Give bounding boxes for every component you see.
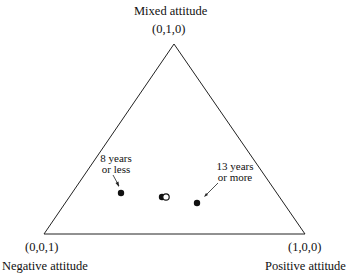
- annotation-13-years-line2: or more: [210, 172, 260, 183]
- top-vertex-coord: (0,1,0): [152, 22, 185, 36]
- top-vertex-title: Mixed attitude: [134, 4, 207, 18]
- annotation-8-years-line2: or less: [94, 164, 138, 175]
- left-vertex-title: Negative attitude: [2, 259, 88, 273]
- annotation-13-years: 13 years or more: [210, 161, 260, 183]
- point-13-years-or-more: [194, 200, 200, 206]
- right-vertex-coord: (1,0,0): [288, 240, 321, 254]
- triangle-frame: [44, 44, 305, 234]
- ternary-diagram: [0, 0, 348, 280]
- annotation-8-years: 8 years or less: [94, 153, 138, 175]
- point-average-open: [163, 194, 169, 200]
- right-vertex-title: Positive attitude: [265, 259, 346, 273]
- arrowhead-low: [116, 182, 120, 188]
- point-8-years-or-less: [118, 190, 124, 196]
- left-vertex-coord: (0,0,1): [25, 240, 58, 254]
